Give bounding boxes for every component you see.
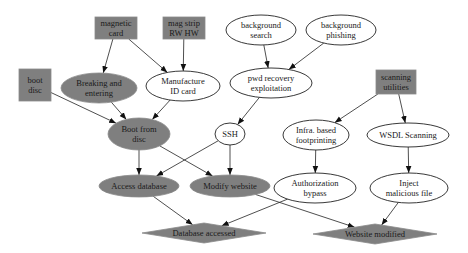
node-label: exploitation <box>251 83 292 93</box>
node-manufacture: ManufactureID card <box>146 71 220 101</box>
edge-boot-from-disc-to-modify-web <box>160 146 213 176</box>
edge-magnetic-card-to-breaking <box>103 39 113 73</box>
node-label: Access database <box>111 181 167 191</box>
edge-breaking-to-boot-from-disc <box>111 102 126 119</box>
node-infra: Infra. basedfootprinting <box>283 120 349 150</box>
node-boot-disc: bootdisc <box>19 69 51 101</box>
node-inject: Injectmalicious file <box>370 173 448 203</box>
node-wsdl: WSDL Scanning <box>367 123 449 147</box>
node-auth-bypass: Authorizationbypass <box>274 173 356 203</box>
node-label: background <box>241 20 282 30</box>
node-breaking: Breaking andentering <box>61 73 137 103</box>
node-access-db: Access database <box>99 175 179 197</box>
node-label: phishing <box>326 30 356 40</box>
node-label: malicious file <box>386 188 433 198</box>
edge-manufacture-to-boot-from-disc <box>152 100 170 119</box>
edge-magnetic-card-to-manufacture <box>129 39 168 72</box>
node-label: entering <box>85 88 114 98</box>
node-label: Inject <box>399 178 419 188</box>
node-modify-web: Modify website <box>190 175 270 197</box>
node-scanning: scanningutilities <box>376 70 416 94</box>
node-pwd-recovery: pwd recoveryexploitation <box>230 68 312 98</box>
node-label: boot <box>27 75 43 85</box>
node-label: bypass <box>303 188 326 198</box>
node-label: background <box>321 20 362 30</box>
node-label: ID card <box>170 86 196 96</box>
node-web-modified: Website modified <box>313 224 437 244</box>
node-label: scanning <box>381 72 412 82</box>
node-label: search <box>250 30 272 40</box>
node-label: card <box>109 28 124 38</box>
node-boot-from-disc: Boot fromdisc <box>108 118 170 150</box>
node-label: mag strip <box>168 18 200 28</box>
node-label: Modify website <box>203 181 257 191</box>
edge-ssh-to-access-db <box>156 141 218 176</box>
nodes: magneticcardmag stripRW HWbootdiscBreaki… <box>19 15 449 244</box>
node-label: Breaking and <box>76 78 122 88</box>
node-label: Manufacture <box>161 76 205 86</box>
node-label: Database accessed <box>172 228 236 238</box>
node-label: Website modified <box>345 229 406 239</box>
node-label: footprinting <box>296 135 337 145</box>
edge-bg-search-to-pwd-recovery <box>264 45 268 68</box>
node-bg-search: backgroundsearch <box>226 15 296 45</box>
edge-scanning-to-wsdl <box>399 94 406 123</box>
node-label: utilities <box>383 82 409 92</box>
edge-inject-to-web-modified <box>382 202 399 225</box>
node-label: SSH <box>222 129 238 139</box>
node-label: WSDL Scanning <box>379 130 437 140</box>
node-label: Authorization <box>291 178 339 188</box>
edge-pwd-recovery-to-ssh <box>238 97 260 124</box>
node-bg-phishing: backgroundphishing <box>306 15 376 45</box>
node-label: Infra. based <box>296 125 337 135</box>
node-label: magnetic <box>100 18 131 28</box>
node-label: pwd recovery <box>248 73 295 83</box>
edge-mag-strip-to-manufacture <box>183 39 184 71</box>
edge-scanning-to-infra <box>335 94 378 123</box>
edge-auth-bypass-to-db-accessed <box>222 199 288 226</box>
node-magnetic-card: magneticcard <box>95 17 137 39</box>
attack-graph: magneticcardmag stripRW HWbootdiscBreaki… <box>0 0 468 253</box>
node-label: Boot from <box>121 124 157 134</box>
node-label: RW HW <box>169 28 198 38</box>
edge-access-db-to-db-accessed <box>153 196 192 225</box>
node-ssh: SSH <box>215 123 245 145</box>
node-mag-strip: mag stripRW HW <box>163 17 205 39</box>
edge-bg-phishing-to-pwd-recovery <box>289 43 324 69</box>
node-label: disc <box>28 85 42 95</box>
node-db-accessed: Database accessed <box>142 223 266 243</box>
node-label: disc <box>132 134 146 144</box>
